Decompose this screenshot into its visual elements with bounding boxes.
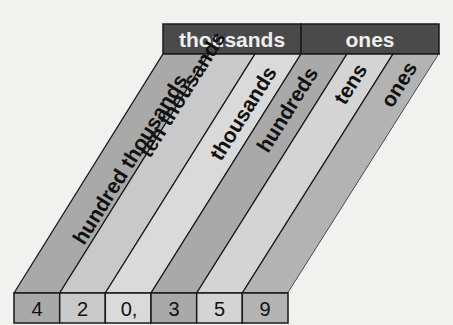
digit-thousands: 0,	[121, 298, 138, 320]
place-bands	[14, 54, 439, 293]
digit-ten-thousands: 2	[77, 298, 88, 320]
place-value-diagram: thousands ones hundred thousands ten tho…	[0, 0, 453, 325]
digit-boxes: 4 2 0, 3 5 9	[14, 293, 288, 323]
group-ones-label: ones	[345, 28, 394, 51]
digit-tens: 5	[214, 298, 225, 320]
digit-hundred-thousands: 4	[31, 298, 42, 320]
digit-ones: 9	[259, 298, 270, 320]
group-thousands-label: thousands	[179, 28, 285, 51]
digit-hundreds: 3	[168, 298, 179, 320]
